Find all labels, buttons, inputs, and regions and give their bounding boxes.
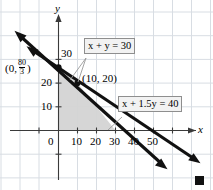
- y-tick-label-10: 10: [41, 101, 52, 112]
- grid-lines: [0, 0, 213, 190]
- fraction-denominator: 3: [19, 67, 25, 76]
- point-marker-10-20: [74, 80, 80, 86]
- y-axis-arrowhead: [55, 14, 61, 22]
- fraction-numerator: 80: [17, 59, 27, 67]
- x-tick-label-40: 40: [128, 136, 139, 147]
- point-marker-0-80-3: [55, 64, 61, 70]
- equation-callout-x-plus-y-30: x + y = 30: [84, 38, 135, 54]
- point-label-0-80-over-3: (0, 80 3 ): [5, 60, 31, 77]
- equation-callout-x-plus-1-5y-40: x + 1.5y = 40: [118, 96, 182, 112]
- point-label-suffix: ): [27, 63, 31, 74]
- x-axis-label: x: [198, 124, 203, 135]
- x-tick-label-10: 10: [71, 136, 82, 147]
- y-axis-label: y: [55, 3, 60, 14]
- graph-figure: y x 30 20 10 0 10 20 30 40 50 (0, 80 3 )…: [0, 0, 213, 190]
- x-tick-label-50: 50: [147, 136, 158, 147]
- corner-square-marker: [195, 176, 204, 185]
- x-tick-label-0: 0: [48, 136, 54, 147]
- x-tick-label-20: 20: [90, 136, 101, 147]
- x-tick-label-30: 30: [109, 136, 120, 147]
- point-label-prefix: (0,: [5, 63, 17, 74]
- coordinate-plot: [0, 0, 213, 190]
- y-tick-label-30: 30: [61, 48, 72, 59]
- point-label-10-20: (10, 20): [82, 73, 117, 84]
- y-tick-label-20: 20: [41, 77, 52, 88]
- fraction-80-over-3: 80 3: [17, 59, 27, 76]
